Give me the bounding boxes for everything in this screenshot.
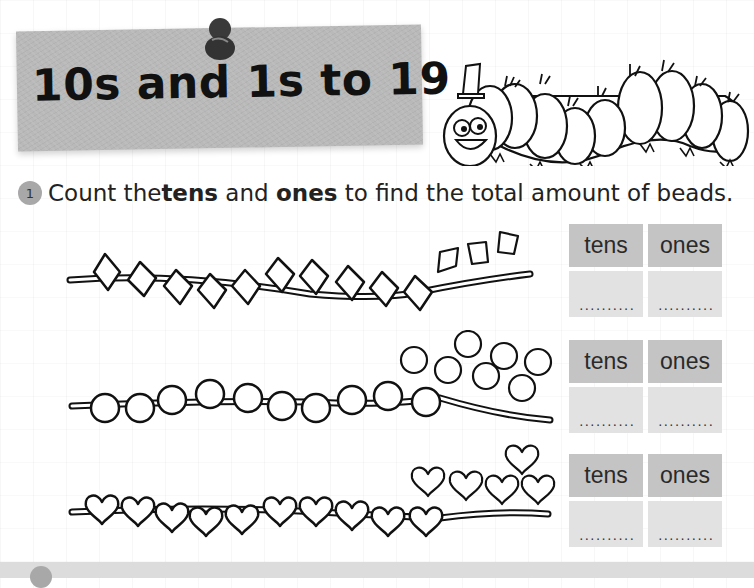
question-1: 1 Count the tens and ones to find the to… bbox=[18, 180, 733, 206]
ones-header: ones bbox=[648, 454, 722, 497]
diamond-beads-string bbox=[60, 222, 560, 332]
tens-header: tens bbox=[569, 454, 643, 497]
place-value-table-2: tens ones .......... .......... bbox=[569, 340, 753, 433]
question-bold-ones: ones bbox=[276, 180, 337, 206]
next-question-strip bbox=[0, 562, 754, 578]
question-text-before: Count the bbox=[48, 180, 161, 206]
question-text-after: to find the total amount of beads. bbox=[337, 180, 733, 206]
caterpillar-illustration bbox=[440, 36, 750, 166]
question-bold-tens: tens bbox=[161, 180, 218, 206]
round-beads-string bbox=[60, 330, 560, 440]
question-text-middle: and bbox=[218, 180, 276, 206]
place-value-table-3: tens ones .......... .......... bbox=[569, 454, 753, 547]
question-number-badge: 1 bbox=[18, 181, 42, 205]
pushpin-icon bbox=[200, 16, 240, 62]
ones-header: ones bbox=[648, 340, 722, 383]
tens-header: tens bbox=[569, 224, 643, 267]
tens-answer-field[interactable]: .......... bbox=[569, 501, 643, 547]
ones-answer-field[interactable]: .......... bbox=[648, 271, 722, 317]
ones-header: ones bbox=[648, 224, 722, 267]
tens-header: tens bbox=[569, 340, 643, 383]
heart-beads-string bbox=[60, 438, 560, 548]
page-title: 10s and 1s to 19 bbox=[32, 52, 451, 110]
question-number-badge-next bbox=[30, 566, 52, 588]
tens-answer-field[interactable]: .......... bbox=[569, 271, 643, 317]
ones-answer-field[interactable]: .......... bbox=[648, 387, 722, 433]
ones-answer-field[interactable]: .......... bbox=[648, 501, 722, 547]
place-value-table-1: tens ones .......... .......... bbox=[569, 224, 753, 317]
tens-answer-field[interactable]: .......... bbox=[569, 387, 643, 433]
